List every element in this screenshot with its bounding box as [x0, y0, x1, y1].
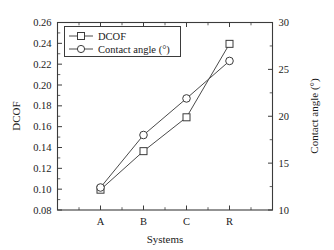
data-point-square — [140, 148, 147, 155]
left-tick-label: 0.26 — [33, 17, 51, 28]
x-axis-title: Systems — [147, 233, 184, 245]
left-tick-label: 0.16 — [33, 121, 51, 132]
chart-figure: 0.080.100.120.140.160.180.200.220.240.26… — [0, 0, 334, 250]
right-tick-label: 15 — [279, 158, 290, 169]
data-point-circle — [226, 57, 234, 65]
y-axis-title: DCOF — [10, 101, 22, 130]
dcof-contact-angle-line-chart: 0.080.100.120.140.160.180.200.220.240.26… — [0, 0, 334, 250]
left-tick-label: 0.20 — [33, 80, 51, 91]
left-tick-label: 0.10 — [33, 184, 51, 195]
square-marker-icon — [78, 33, 85, 40]
chart-legend: DCOF Contact angle (°) — [65, 27, 181, 57]
left-tick-label: 0.12 — [33, 163, 51, 174]
data-point-circle — [140, 131, 148, 139]
data-point-square — [183, 114, 190, 121]
legend-label-contact-angle: Contact angle (°) — [98, 44, 170, 56]
right-tick-label: 10 — [279, 205, 290, 216]
x-tick-label: B — [140, 216, 147, 227]
x-tick-label: A — [97, 216, 105, 227]
left-tick-label: 0.22 — [33, 59, 51, 70]
x-tick-label: C — [183, 216, 190, 227]
data-point-square — [226, 40, 233, 47]
right-tick-label: 30 — [279, 17, 290, 28]
left-tick-label: 0.18 — [33, 100, 51, 111]
left-tick-label: 0.08 — [33, 205, 51, 216]
left-tick-label: 0.24 — [33, 38, 52, 49]
left-tick-label: 0.14 — [33, 142, 52, 153]
right-tick-label: 25 — [279, 64, 290, 75]
circle-marker-icon — [77, 45, 84, 52]
legend-label-dcof: DCOF — [98, 31, 126, 42]
data-point-circle — [183, 95, 191, 103]
y2-axis-title: Contact angle (°) — [308, 78, 321, 154]
right-tick-label: 20 — [279, 111, 290, 122]
x-tick-label: R — [226, 216, 233, 227]
data-point-circle — [97, 184, 105, 192]
